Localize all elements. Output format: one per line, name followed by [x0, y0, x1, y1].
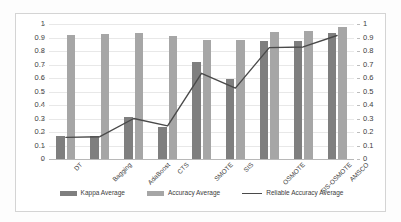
legend-swatch-icon	[60, 191, 77, 196]
y-axis-left-tick-mark	[42, 24, 45, 25]
y-axis-right: 10.90.80.70.60.50.40.30.20.10	[357, 24, 385, 159]
y-axis-right-tick-label: 0.1	[363, 142, 373, 150]
y-axis-right-tick-label: 0.8	[363, 47, 373, 55]
chart-frame: 10.90.80.70.60.50.40.30.20.10 10.90.80.7…	[15, 13, 386, 212]
y-axis-left-tick-mark	[42, 159, 45, 160]
y-axis-left-tick-mark	[42, 78, 45, 79]
y-axis-right-tick-label: 0.5	[363, 88, 373, 96]
y-axis-left: 10.90.80.70.60.50.40.30.20.10	[16, 24, 45, 159]
category-label: DT	[72, 161, 83, 172]
plot-area	[49, 24, 354, 159]
line-series-reliable-accuracy-average	[49, 24, 354, 159]
y-axis-left-tick-mark	[42, 92, 45, 93]
legend-item[interactable]: Kappa Average	[60, 190, 125, 197]
y-axis-right-tick-mark	[357, 78, 360, 79]
legend-item[interactable]: Accuracy Average	[147, 190, 220, 197]
y-axis-left-tick-mark	[42, 105, 45, 106]
y-axis-right-tick-label: 1	[363, 20, 367, 28]
y-axis-right-tick-label: 0.2	[363, 128, 373, 136]
y-axis-left-tick-mark	[42, 146, 45, 147]
y-axis-right-tick-mark	[357, 105, 360, 106]
y-axis-left-tick-mark	[42, 51, 45, 52]
y-axis-right-tick-label: 0.4	[363, 101, 373, 109]
y-axis-right-tick-label: 0.6	[363, 74, 373, 82]
category-label: AdaBoost	[146, 161, 171, 186]
gridline	[49, 159, 354, 160]
y-axis-right-tick-label: 0.3	[363, 115, 373, 123]
y-axis-right-tick-mark	[357, 51, 360, 52]
legend-swatch-icon	[147, 191, 164, 196]
legend-swatch-icon	[242, 193, 262, 194]
legend-label: Kappa Average	[81, 190, 125, 197]
category-label: Bagging	[111, 161, 133, 183]
line-path-reliable-accuracy-average	[66, 35, 337, 137]
y-axis-right-tick-mark	[357, 146, 360, 147]
chart-container: 10.90.80.70.60.50.40.30.20.10 10.90.80.7…	[0, 0, 401, 222]
category-label: SMOTE	[212, 161, 233, 182]
y-axis-left-tick-mark	[42, 38, 45, 39]
category-label: SIS	[242, 161, 254, 173]
category-label: OSMOTE	[282, 161, 307, 186]
chart-legend: Kappa AverageAccuracy AverageReliable Ac…	[16, 190, 387, 197]
legend-label: Accuracy Average	[168, 190, 220, 197]
y-axis-right-tick-mark	[357, 132, 360, 133]
y-axis-right-tick-mark	[357, 119, 360, 120]
y-axis-right-tick-label: 0.9	[363, 34, 373, 42]
legend-label: Reliable Accuracy Average	[266, 190, 343, 197]
y-axis-right-tick-mark	[357, 24, 360, 25]
legend-item[interactable]: Reliable Accuracy Average	[242, 190, 343, 197]
y-axis-right-tick-mark	[357, 65, 360, 66]
y-axis-left-tick-mark	[42, 132, 45, 133]
category-label: CTS	[175, 161, 189, 175]
y-axis-right-tick-mark	[357, 38, 360, 39]
y-axis-right-tick-label: 0.7	[363, 61, 373, 69]
y-axis-right-tick-mark	[357, 159, 360, 160]
y-axis-right-tick-mark	[357, 92, 360, 93]
y-axis-left-tick-mark	[42, 119, 45, 120]
y-axis-left-tick-mark	[42, 65, 45, 66]
